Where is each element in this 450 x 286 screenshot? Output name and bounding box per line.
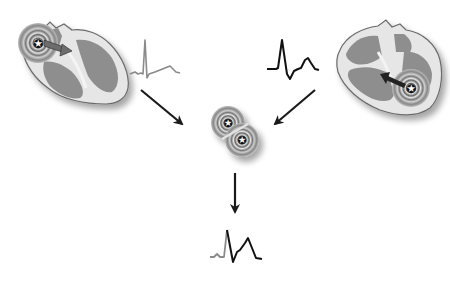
fusion-wavefronts — [211, 106, 259, 157]
star-icon: ✪ — [33, 37, 43, 51]
fusion-beat-diagram: ✪ ✪ ✪ ✪ — [0, 0, 450, 286]
ecg-narrow-qrs — [130, 40, 180, 78]
ecg-fusion-complex — [210, 230, 262, 262]
arrow-right-to-fusion — [275, 90, 315, 124]
star-icon: ✪ — [237, 134, 246, 147]
arrow-left-to-fusion — [141, 90, 182, 124]
right-heart — [337, 20, 442, 115]
right-focus-rings: ✪ — [392, 69, 430, 107]
star-icon: ✪ — [406, 82, 416, 96]
ecg-wide-qrs — [267, 40, 319, 79]
star-icon: ✪ — [223, 117, 232, 130]
